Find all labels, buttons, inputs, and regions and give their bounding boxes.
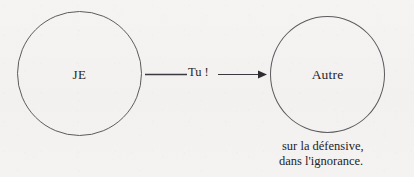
node-label-autre: Autre: [312, 68, 344, 82]
node-label-je: JE: [72, 68, 86, 81]
diagram-canvas: JE Tu ! Autre sur la défensive, dans l'i…: [0, 0, 414, 177]
node-circle-autre: Autre: [270, 16, 385, 133]
caption-line-2: dans l'ignorance.: [278, 154, 406, 169]
edge-arrow-group: Tu !: [144, 60, 270, 90]
caption-line-1: sur la défensive,: [278, 139, 406, 154]
edge-label-tu: Tu !: [188, 66, 209, 79]
node-circle-je: JE: [17, 11, 142, 136]
caption-autre: sur la défensive, dans l'ignorance.: [278, 139, 406, 169]
